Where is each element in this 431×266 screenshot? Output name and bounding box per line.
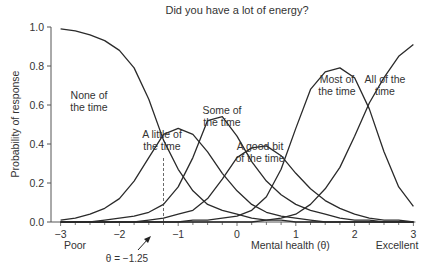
y-tick-label: 0.0	[29, 216, 44, 228]
chart-canvas: Did you have a lot of energy? Probabilit…	[0, 0, 431, 266]
curve-label: Some of	[202, 104, 241, 116]
excellent-label: Excellent	[376, 239, 419, 251]
x-tick-label: −1	[172, 228, 184, 240]
poor-label: Poor	[64, 239, 87, 251]
curve-label: of the time	[235, 152, 284, 164]
curve-label: A good bit	[237, 140, 284, 152]
y-axis-label: Probability of response	[9, 70, 21, 177]
x-axis-label: Mental health (θ)	[251, 239, 330, 251]
y-tick-label: 1.0	[29, 21, 44, 33]
y-tick-label: 0.2	[29, 177, 44, 189]
curve-label: A little of	[142, 128, 182, 140]
x-tick-label: 2	[352, 228, 358, 240]
curve-label: All of the	[365, 73, 406, 85]
y-tick-label: 0.8	[29, 60, 44, 72]
curve-label: the time	[318, 85, 356, 97]
curve-label: time	[375, 85, 395, 97]
x-tick-label: −2	[113, 228, 125, 240]
curve-label: the time	[203, 116, 241, 128]
curve-label: the time	[143, 140, 181, 152]
y-tick-label: 0.4	[29, 138, 44, 150]
y-tick-label: 0.6	[29, 99, 44, 111]
x-tick-label: 0	[234, 228, 240, 240]
chart-title: Did you have a lot of energy?	[165, 4, 308, 16]
theta-annotation: θ = −1.25	[106, 253, 149, 264]
theta-arrow	[138, 236, 151, 250]
curve-label: Most of	[320, 73, 355, 85]
curve-5	[61, 45, 414, 223]
curve-labels: None ofthe timeA little ofthe timeSome o…	[70, 73, 405, 164]
curve-label: None of	[71, 89, 108, 101]
axes: 0.00.20.40.60.81.0−3−2−10123	[29, 21, 416, 240]
curve-label: the time	[70, 101, 108, 113]
curve-2	[61, 117, 414, 222]
